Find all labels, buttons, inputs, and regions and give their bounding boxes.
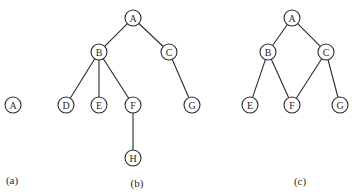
node-c-C: C xyxy=(318,44,334,60)
node-label: E xyxy=(96,100,102,111)
captions-layer: (a)(b)(c) xyxy=(6,174,307,190)
node-c-A: A xyxy=(284,10,300,26)
node-label: C xyxy=(323,47,330,58)
node-c-F: F xyxy=(284,97,300,113)
node-label: H xyxy=(129,153,136,164)
node-label: B xyxy=(265,47,272,58)
edge-c-C-F xyxy=(296,59,321,99)
node-a-A: A xyxy=(5,97,21,113)
node-label: A xyxy=(9,100,17,111)
node-b-D: D xyxy=(58,97,74,113)
node-label: A xyxy=(129,13,137,24)
node-label: A xyxy=(288,13,296,24)
node-c-G: G xyxy=(332,97,348,113)
edge-c-A-B xyxy=(273,25,288,46)
node-b-E: E xyxy=(91,97,107,113)
graph-diagram-canvas: AABCDEFGHABCEFG (a)(b)(c) xyxy=(0,0,357,194)
node-b-F: F xyxy=(125,97,141,113)
node-c-B: B xyxy=(260,44,276,60)
node-label: G xyxy=(336,100,343,111)
caption-c: (c) xyxy=(294,175,307,188)
edge-b-C-G xyxy=(172,59,189,97)
node-b-A: A xyxy=(125,10,141,26)
node-c-E: E xyxy=(242,97,258,113)
edges-layer xyxy=(70,23,338,150)
node-label: B xyxy=(96,47,103,58)
node-b-C: C xyxy=(161,44,177,60)
node-b-H: H xyxy=(125,150,141,166)
edge-b-A-C xyxy=(139,23,163,46)
node-b-G: G xyxy=(184,97,200,113)
node-label: F xyxy=(130,100,136,111)
node-label: C xyxy=(166,47,173,58)
edge-b-B-F xyxy=(103,59,128,99)
edge-b-B-D xyxy=(70,59,95,98)
node-label: G xyxy=(188,100,195,111)
edge-c-C-G xyxy=(328,60,338,98)
edge-c-A-C xyxy=(298,24,321,47)
nodes-layer: AABCDEFGHABCEFG xyxy=(5,10,348,166)
edge-c-B-F xyxy=(271,59,288,97)
node-label: D xyxy=(62,100,69,111)
node-label: F xyxy=(289,100,295,111)
edge-b-A-B xyxy=(105,24,128,47)
caption-a: (a) xyxy=(6,174,19,187)
node-b-B: B xyxy=(91,44,107,60)
node-label: E xyxy=(247,100,253,111)
edge-c-B-E xyxy=(253,60,266,98)
caption-b: (b) xyxy=(131,177,144,190)
